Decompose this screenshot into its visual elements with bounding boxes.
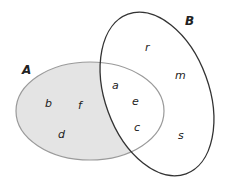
venn-svg: A B r m s a e c b f d (0, 0, 227, 186)
element-e: e (132, 95, 139, 108)
venn-diagram: A B r m s a e c b f d (0, 0, 227, 186)
element-d: d (58, 128, 66, 141)
element-s: s (178, 129, 184, 142)
element-r: r (145, 41, 151, 54)
set-b-label: B (185, 14, 194, 28)
element-b: b (45, 97, 52, 110)
element-c: c (134, 121, 140, 134)
element-m: m (175, 69, 186, 82)
set-a-label: A (21, 63, 31, 77)
element-a: a (112, 79, 119, 92)
